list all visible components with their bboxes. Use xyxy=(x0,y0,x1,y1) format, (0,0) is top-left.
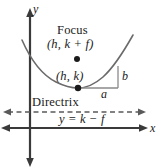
directrix-equation-label: y = k − f xyxy=(59,113,105,126)
focus-point-dot xyxy=(74,56,80,62)
directrix-arrow-left xyxy=(3,109,11,116)
focus-title-label: Focus xyxy=(57,24,88,37)
focus-coordinates-label: (h, k + f) xyxy=(47,38,94,51)
directrix-arrow-right xyxy=(138,109,146,116)
vertex-coordinates-label: (h, k) xyxy=(56,70,84,83)
leg-b-label: b xyxy=(122,70,128,82)
vertex-point-dot xyxy=(75,85,81,91)
y-axis-label: y xyxy=(33,3,39,15)
x-axis-arrow-right xyxy=(139,124,148,132)
parabola-figure: Focus (h, k + f) (h, k) a b Directrix y … xyxy=(0,0,162,168)
directrix-title-label: Directrix xyxy=(32,96,79,109)
x-axis-label: x xyxy=(150,122,156,134)
y-axis xyxy=(26,8,34,167)
y-axis-arrow-down xyxy=(26,158,34,167)
leg-a-label: a xyxy=(101,88,107,100)
x-axis-arrow-left xyxy=(1,124,10,132)
right-triangle xyxy=(78,66,118,88)
